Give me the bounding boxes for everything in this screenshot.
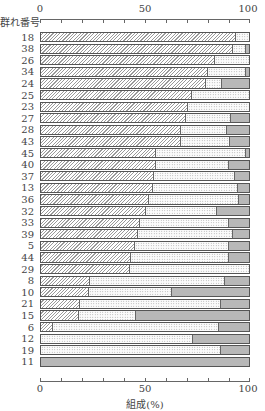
bar-segment-dotted <box>129 265 249 273</box>
axis-tick <box>124 19 125 23</box>
bar-segment-dotted <box>52 323 217 331</box>
axis-tick <box>187 378 188 382</box>
bar-segment-dotted <box>137 230 233 238</box>
bar-segment-gray <box>218 323 249 331</box>
stacked-bar <box>40 322 250 332</box>
stacked-bar <box>40 148 250 158</box>
bar-segment-dotted <box>207 68 244 76</box>
bar-segment-hatched <box>41 288 88 296</box>
bar-segment-gray <box>224 277 249 285</box>
stacked-bar <box>40 241 250 251</box>
axis-tick <box>82 19 83 23</box>
bar-segment-dotted <box>152 184 236 192</box>
stacked-bar <box>40 206 250 216</box>
bar-segment-hatched <box>41 149 155 157</box>
axis-tick <box>229 19 230 23</box>
axis-tick <box>61 19 62 23</box>
row-label: 45 <box>2 148 34 160</box>
bar-segment-hatched <box>41 79 205 87</box>
bar-segment-hatched <box>41 161 155 169</box>
row-label: 5 <box>2 240 34 252</box>
top-tick-label-100: 100 <box>238 3 257 14</box>
y-axis-title: 群れ番号 <box>0 14 40 29</box>
stacked-bar <box>40 287 250 297</box>
bar-segment-hatched <box>41 242 134 250</box>
bar-segment-dotted <box>185 114 231 122</box>
bar-segment-gray <box>220 346 249 354</box>
chart: 0 50 100 群れ番号 18382634242523272843454037… <box>0 0 265 411</box>
bar-segment-gray <box>237 184 249 192</box>
stacked-bar <box>40 90 250 100</box>
row-label: 26 <box>2 55 34 67</box>
bar-segment-hatched <box>41 91 191 99</box>
row-label: 21 <box>2 298 34 310</box>
bar-segment-dotted <box>78 311 134 319</box>
bar-segment-dotted <box>145 207 216 215</box>
stacked-bar <box>40 102 250 112</box>
bar-segment-dotted <box>214 56 249 64</box>
stacked-bar <box>40 252 250 262</box>
bar-segment-dotted <box>41 335 192 343</box>
bar-segment-dotted <box>235 33 249 41</box>
axis-tick <box>124 378 125 382</box>
row-label: 6 <box>2 322 34 334</box>
bar-segment-hatched <box>41 265 129 273</box>
axis-tick <box>208 19 209 23</box>
bar-segment-dotted <box>41 346 220 354</box>
bar-segment-gray <box>221 79 249 87</box>
bar-segment-dotted <box>232 45 244 53</box>
stacked-bar <box>40 299 250 309</box>
bar-segment-dotted <box>139 219 228 227</box>
row-label: 12 <box>2 333 34 345</box>
bar-segment-gray <box>216 207 249 215</box>
stacked-bar <box>40 32 250 42</box>
bar-segment-gray <box>226 126 249 134</box>
axis-tick <box>61 378 62 382</box>
stacked-bar <box>40 78 250 88</box>
stacked-bar <box>40 310 250 320</box>
bar-segment-gray <box>220 300 249 308</box>
axis-tick <box>40 19 41 23</box>
axis-tick <box>40 378 41 382</box>
row-label: 27 <box>2 113 34 125</box>
row-label: 33 <box>2 217 34 229</box>
axis-tick <box>82 378 83 382</box>
axis-tick <box>145 378 146 382</box>
stacked-bar <box>40 125 250 135</box>
bar-segment-hatched <box>41 207 145 215</box>
bar-segment-hatched <box>41 300 79 308</box>
bar-segment-dotted <box>155 161 228 169</box>
bar-segment-gray <box>238 195 249 203</box>
stacked-bar <box>40 334 250 344</box>
row-label: 11 <box>2 356 34 368</box>
axis-tick <box>249 378 250 382</box>
axis-tick <box>166 19 167 23</box>
bar-segment-hatched <box>41 103 187 111</box>
row-label: 23 <box>2 101 34 113</box>
bar-segment-dotted <box>191 91 249 99</box>
row-label: 39 <box>2 229 34 241</box>
bottom-tick-label-0: 0 <box>37 383 43 394</box>
stacked-bar <box>40 357 250 367</box>
bar-segment-gray <box>228 161 249 169</box>
bar-segment-gray <box>232 230 249 238</box>
bar-segment-dotted <box>134 242 229 250</box>
row-label: 44 <box>2 252 34 264</box>
row-label: 43 <box>2 136 34 148</box>
bar-segment-gray <box>228 242 249 250</box>
bar-segment-dotted <box>130 253 228 261</box>
stacked-bar <box>40 171 250 181</box>
axis-tick <box>229 378 230 382</box>
bar-segment-dotted <box>89 277 224 285</box>
bar-segment-gray <box>245 45 249 53</box>
bar-segment-hatched <box>41 114 185 122</box>
row-label: 29 <box>2 264 34 276</box>
axis-tick <box>103 19 104 23</box>
row-label: 8 <box>2 275 34 287</box>
stacked-bar <box>40 345 250 355</box>
bar-segment-hatched <box>41 311 78 319</box>
bar-segment-hatched <box>41 68 207 76</box>
axis-tick <box>208 378 209 382</box>
bar-segment-gray <box>228 253 249 261</box>
top-tick-label-50: 50 <box>139 3 152 14</box>
